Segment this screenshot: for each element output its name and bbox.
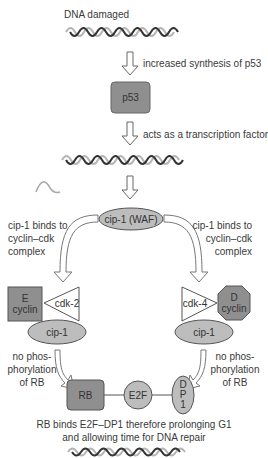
arrow-down-icon [122,122,138,145]
dna-helix-icon [62,156,183,164]
e-cyclin-label: E cyclin [8,287,42,321]
right-nophos-line-2: phorylation [207,363,263,376]
dna-helix-repaired-icon [68,449,185,456]
cip1-right-label: cip-1 [175,320,233,344]
d-cyclin-line-1: D [230,292,237,303]
right-nophos-line-1: no phos- [207,350,263,363]
transcription-factor-label: acts as a transcription factor [143,128,268,141]
right-binds-label: cip-1 binds to cyclin–cdk complex [186,219,252,258]
left-nophos-line-2: phorylation [4,363,60,376]
dna-helix-damaged-icon [66,28,178,36]
e2f-label: E2F [124,381,152,409]
cip1-left-label: cip-1 [28,320,86,344]
right-binds-line-1: cip-1 binds to [186,219,252,232]
dna-damaged-label: DNA damaged [64,8,129,21]
cdk2-label: cdk-2 [54,296,80,310]
left-nophos-line-1: no phos- [4,350,60,363]
dp1-line-3: 1 [180,400,186,410]
arrow-down-icon [122,52,138,75]
conclusion-label: RB binds E2F–DP1 therefore prolonging G1… [0,418,268,444]
e-cyclin-line-2: cyclin [12,304,37,315]
rb-label: RB [67,380,104,410]
right-binds-line-2: cyclin–cdk [186,232,252,245]
left-binds-line-2: cyclin–cdk [8,232,67,245]
left-binds-label: cip-1 binds to cyclin–cdk complex [8,219,67,258]
right-binds-line-3: complex [186,245,252,258]
left-nophos-line-3: of RB [4,376,60,389]
p53-label: p53 [111,82,150,113]
left-binds-line-3: complex [8,245,67,258]
d-cyclin-label: D cyclin [218,286,250,320]
right-nophos-label: no phos- phorylation of RB [207,350,263,389]
conclusion-line-2: and allowing time for DNA repair [0,431,268,444]
arrow-down-icon [122,176,138,199]
mrna-strand-icon [36,182,60,193]
left-nophos-label: no phos- phorylation of RB [4,350,60,389]
left-binds-line-1: cip-1 binds to [8,219,67,232]
conclusion-line-1: RB binds E2F–DP1 therefore prolonging G1 [0,418,268,431]
e-cyclin-line-1: E [22,293,29,304]
increased-synthesis-label: increased synthesis of p53 [143,57,261,70]
cdk4-label: cdk-4 [182,296,208,310]
cip1-waf-label: cip-1 (WAF) [99,208,163,230]
d-cyclin-line-2: cyclin [221,303,246,314]
dp1-label: D P 1 [172,377,194,413]
right-nophos-line-3: of RB [207,376,263,389]
